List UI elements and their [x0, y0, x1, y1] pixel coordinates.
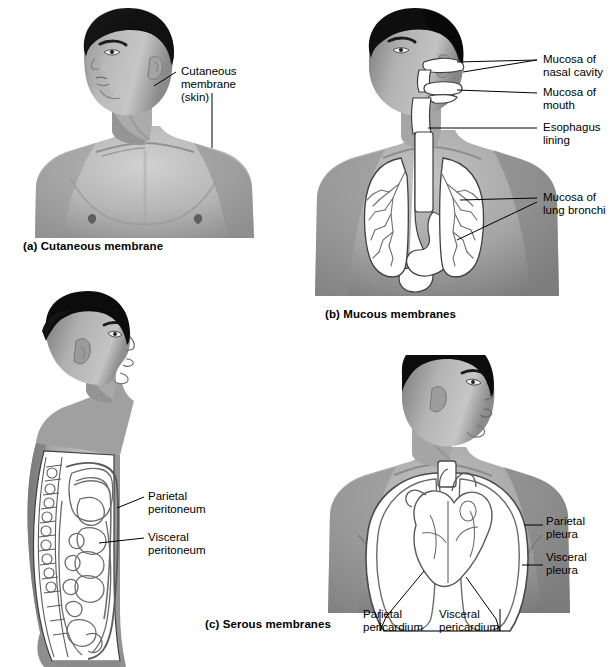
label-mucosa-lung-bronchi: Mucosa of lung bronchi: [543, 191, 606, 217]
panel-c-pleura-pericardium: Parietal pleura Visceral pleura Parietal…: [300, 355, 610, 667]
panel-c-left-leader-lines: [0, 285, 305, 667]
label-mucosa-mouth: Mucosa of mouth: [543, 86, 596, 112]
caption-panel-a: (a) Cutaneous membrane: [23, 240, 163, 252]
panel-b-mucous-membranes: Mucosa of nasal cavity Mucosa of mouth E…: [305, 0, 610, 300]
leader-mouth: [457, 90, 537, 93]
panel-c-peritoneum: Parietal peritoneum Visceral peritoneum: [0, 285, 305, 667]
panel-b-leader-lines: [305, 0, 610, 300]
leader-visceral-peritoneum: [99, 538, 144, 543]
label-parietal-pericardium: Parietal pericardium: [363, 608, 423, 634]
body-membranes-figure: Cutaneous membrane (skin) (a) Cutaneous …: [0, 0, 610, 667]
caption-panel-c: (c) Serous membranes: [205, 618, 331, 630]
label-mucosa-nasal-cavity: Mucosa of nasal cavity: [543, 53, 603, 79]
leader-cutaneous-neck: [154, 72, 176, 86]
label-visceral-pericardium: Visceral pericardium: [439, 608, 499, 634]
label-visceral-peritoneum: Visceral peritoneum: [148, 531, 206, 557]
caption-panel-b: (b) Mucous membranes: [325, 308, 456, 320]
leader-bronchi-1: [460, 198, 537, 200]
label-parietal-peritoneum: Parietal peritoneum: [148, 490, 206, 516]
panel-a-leader-lines: [0, 0, 305, 265]
label-parietal-pleura: Parietal pleura: [546, 515, 585, 541]
panel-a-cutaneous-membrane: Cutaneous membrane (skin): [0, 0, 305, 265]
label-cutaneous-membrane: Cutaneous membrane (skin): [181, 65, 237, 104]
label-esophagus-lining: Esophagus lining: [543, 121, 601, 147]
label-visceral-pleura: Visceral pleura: [546, 551, 587, 577]
leader-parietal-peritoneum: [117, 497, 144, 508]
leader-bronchi-2: [457, 202, 537, 240]
